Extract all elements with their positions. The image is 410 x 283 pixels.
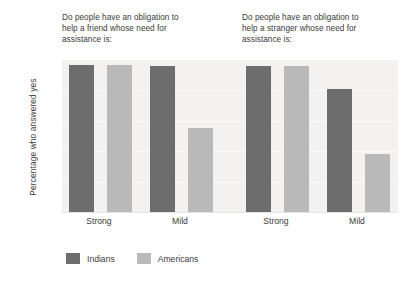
bar-stranger-strong-americans — [284, 66, 309, 212]
legend-label-americans: Americans — [158, 254, 199, 264]
legend-swatch-indians — [66, 253, 80, 264]
panel-title-friend: Do people have an obligation to help a f… — [62, 12, 212, 46]
bar-stranger-strong-indians — [246, 66, 271, 212]
x-axis-baseline — [62, 212, 398, 213]
x-tick-stranger-strong: Strong — [246, 216, 306, 226]
bar-friend-mild-indians — [150, 66, 175, 212]
x-tick-friend-mild: Mild — [150, 216, 210, 226]
x-tick-stranger-mild: Mild — [327, 216, 387, 226]
bar-friend-strong-americans — [107, 65, 132, 212]
bar-friend-strong-indians — [69, 65, 94, 212]
plot-area — [62, 60, 398, 212]
bar-stranger-mild-indians — [327, 89, 352, 212]
panel-title-stranger: Do people have an obligation to help a s… — [242, 12, 394, 46]
bar-chart-figure: Do people have an obligation to help a f… — [0, 0, 410, 283]
legend-label-indians: Indians — [87, 254, 115, 264]
y-axis-label: Percentage who answered yes — [28, 57, 38, 217]
legend-swatch-americans — [137, 253, 151, 264]
legend-entry-americans: Americans — [137, 253, 199, 264]
bar-friend-mild-americans — [188, 128, 213, 212]
x-tick-friend-strong: Strong — [69, 216, 129, 226]
bar-stranger-mild-americans — [365, 154, 390, 212]
chart-legend: Indians Americans — [66, 253, 198, 264]
legend-entry-indians: Indians — [66, 253, 115, 264]
